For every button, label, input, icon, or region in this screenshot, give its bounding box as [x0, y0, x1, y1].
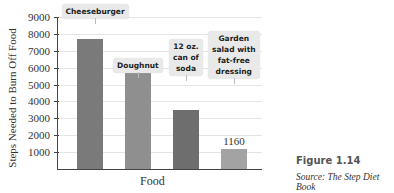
y-tick [54, 152, 59, 153]
y-tick-label: 3000 [10, 113, 50, 124]
y-tick-label: 1000 [10, 147, 50, 158]
y-tick [54, 135, 59, 136]
y-tick [54, 101, 59, 102]
salad-value-label: 1160 [214, 135, 254, 147]
y-tick [54, 34, 59, 35]
y-tick-label: 7000 [10, 46, 50, 57]
y-tick-label: 2000 [10, 130, 50, 141]
callout-label: Doughnut [113, 58, 163, 73]
y-tick [54, 118, 59, 119]
bar-cheeseburger [77, 39, 103, 169]
y-tick-label: 4000 [10, 96, 50, 107]
bar-garden-salad-with-fat-free-dressing [221, 149, 247, 169]
x-axis-label: Food [140, 174, 165, 189]
y-tick [54, 68, 59, 69]
bar-doughnut [125, 71, 151, 169]
figure-number: Figure 1.14 [296, 155, 360, 166]
y-axis [57, 17, 58, 169]
y-tick-label: 6000 [10, 63, 50, 74]
bar-12-oz-can-of-soda [173, 110, 199, 169]
callout-label: 12 oz.can ofsoda [169, 39, 203, 76]
plot-area: 100020003000400050006000700080009000Chee… [57, 17, 262, 169]
x-axis [57, 169, 262, 170]
y-tick [54, 51, 59, 52]
y-tick-label: 5000 [10, 80, 50, 91]
callout-label: Cheeseburger [62, 4, 129, 19]
y-tick [54, 85, 59, 86]
figure-source: Source: The Step Diet Book [296, 172, 394, 192]
y-tick [54, 17, 59, 18]
y-tick-label: 8000 [10, 29, 50, 40]
callout-label: Gardensalad withfat-freedressing [208, 31, 260, 79]
y-tick-label: 9000 [10, 12, 50, 23]
